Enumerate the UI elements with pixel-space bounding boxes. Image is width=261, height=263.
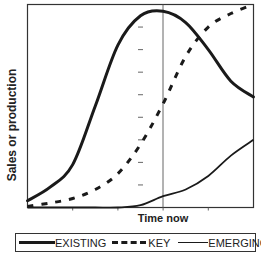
legend-item-existing: EXISTING [16, 237, 106, 249]
legend-label-emerging: EMERGING [208, 237, 261, 249]
legend-item-key: KEY [106, 237, 170, 249]
chart-legend: EXISTING KEY EMERGING [15, 233, 256, 252]
chart-canvas [0, 0, 261, 263]
series-emerging-line [28, 140, 254, 208]
y-axis-label: Sales or production [5, 69, 19, 182]
series-existing-line [28, 11, 254, 201]
legend-swatch-thick-solid-icon [19, 241, 55, 244]
legend-label-key: KEY [148, 237, 170, 249]
legend-swatch-thin-solid-icon [178, 242, 208, 243]
legend-swatch-dashed-icon [112, 241, 146, 244]
series-key-line [28, 5, 254, 207]
legend-item-emerging: EMERGING [170, 237, 261, 249]
y-ticks [138, 27, 143, 185]
legend-label-existing: EXISTING [55, 237, 106, 249]
x-axis-label: Time now [138, 212, 189, 224]
